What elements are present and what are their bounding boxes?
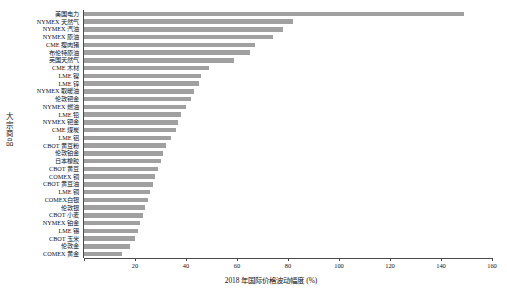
bar xyxy=(84,19,293,23)
bar-row xyxy=(84,212,491,220)
bar-row xyxy=(84,157,491,165)
bar-row xyxy=(84,57,491,65)
category-label: NYMEX 燃油 xyxy=(16,103,82,111)
category-label: LME 铜 xyxy=(16,188,82,196)
x-tick-mark xyxy=(441,258,442,261)
x-tick-mark xyxy=(84,258,85,261)
category-label: 美国电力 xyxy=(16,10,82,18)
bar xyxy=(84,198,148,202)
category-label: 伦敦钯金 xyxy=(16,95,82,103)
bar xyxy=(84,221,140,225)
x-tick-label: 160 xyxy=(487,262,497,269)
bar xyxy=(84,58,234,62)
x-tick-label: 120 xyxy=(385,262,395,269)
bar xyxy=(84,12,464,16)
bar-row xyxy=(84,49,491,57)
bar-chart: 大宗商品 美国电力NYMEX 天然气NYMEX 汽油NYMEX 原油CME 瘦肉… xyxy=(0,0,507,296)
category-axis-labels: 美国电力NYMEX 天然气NYMEX 汽油NYMEX 原油CME 瘦肉猪布伦特原… xyxy=(16,10,82,258)
x-axis-ticks: 20406080100120140160 xyxy=(84,258,492,262)
bar-row xyxy=(84,204,491,212)
bar xyxy=(84,120,178,124)
x-tick-mark xyxy=(288,258,289,261)
bar xyxy=(84,136,171,140)
category-label: CME 木材 xyxy=(16,64,82,72)
bar-row xyxy=(84,26,491,34)
bar-row xyxy=(84,165,491,173)
bar xyxy=(84,236,135,240)
bar xyxy=(84,182,153,186)
bar-row xyxy=(84,119,491,127)
bar-row xyxy=(84,235,491,243)
bar xyxy=(84,229,138,233)
bar-row xyxy=(84,111,491,119)
bar-row xyxy=(84,243,491,251)
category-label: CBOT 黄豆 xyxy=(16,165,82,173)
x-tick-label: 20 xyxy=(132,262,138,269)
bar xyxy=(84,97,191,101)
bar xyxy=(84,112,181,116)
category-label: CME 瘦肉猪 xyxy=(16,41,82,49)
category-label: COMEX白银 xyxy=(16,196,82,204)
x-tick-mark xyxy=(237,258,238,261)
category-label: NYMEX 铂金 xyxy=(16,219,82,227)
bar xyxy=(84,35,273,39)
category-label: COMEX 黄金 xyxy=(16,250,82,258)
category-label: LME 铝 xyxy=(16,134,82,142)
bar-row xyxy=(84,103,491,111)
bar xyxy=(84,167,158,171)
x-tick-mark xyxy=(135,258,136,261)
bar xyxy=(84,174,155,178)
bar-row xyxy=(84,173,491,181)
category-label: NYMEX 原油 xyxy=(16,33,82,41)
bar xyxy=(84,252,122,256)
bar-row xyxy=(84,250,491,258)
bar xyxy=(84,205,145,209)
bar-row xyxy=(84,18,491,26)
bar-row xyxy=(84,142,491,150)
x-tick-label: 60 xyxy=(234,262,240,269)
bar xyxy=(84,151,163,155)
category-label: 日本橡胶 xyxy=(16,157,82,165)
bar-row xyxy=(84,134,491,142)
bar xyxy=(84,27,283,31)
x-tick-mark xyxy=(492,258,493,261)
bar xyxy=(84,190,150,194)
bar xyxy=(84,128,176,132)
bar-row xyxy=(84,219,491,227)
bar-row xyxy=(84,64,491,72)
plot-area: 20406080100120140160 xyxy=(83,10,491,258)
bar xyxy=(84,66,209,70)
bar xyxy=(84,43,255,47)
bar-row xyxy=(84,150,491,158)
x-tick-mark xyxy=(390,258,391,261)
bar xyxy=(84,213,143,217)
bar-row xyxy=(84,227,491,235)
bar xyxy=(84,244,130,248)
bar-row xyxy=(84,181,491,189)
bar-row xyxy=(84,72,491,80)
bar-row xyxy=(84,126,491,134)
x-tick-mark xyxy=(186,258,187,261)
x-tick-label: 40 xyxy=(183,262,189,269)
bar-row xyxy=(84,95,491,103)
bar-row xyxy=(84,88,491,96)
bar-row xyxy=(84,196,491,204)
category-label: LME 锡 xyxy=(16,227,82,235)
bar-series xyxy=(84,10,491,258)
plot-wrapper: 美国电力NYMEX 天然气NYMEX 汽油NYMEX 原油CME 瘦肉猪布伦特原… xyxy=(16,10,505,258)
y-axis-title: 大宗商品 xyxy=(2,0,16,258)
x-tick-mark xyxy=(339,258,340,261)
category-label: LME 镍 xyxy=(16,72,82,80)
bar-row xyxy=(84,33,491,41)
x-axis-title: 2018 年国际价格波动幅度 (%) xyxy=(67,274,475,285)
bar xyxy=(84,143,166,147)
x-tick-label: 140 xyxy=(436,262,446,269)
bar xyxy=(84,74,201,78)
x-tick-label: 80 xyxy=(285,262,291,269)
bar-row xyxy=(84,188,491,196)
bar xyxy=(84,89,194,93)
bar xyxy=(84,50,250,54)
bar-row xyxy=(84,41,491,49)
bar-row xyxy=(84,80,491,88)
bar-row xyxy=(84,10,491,18)
